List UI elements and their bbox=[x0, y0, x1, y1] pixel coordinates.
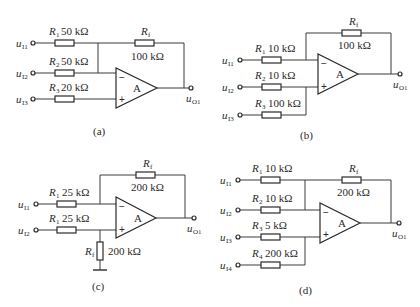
ground-resistor-label: R bbox=[84, 245, 92, 257]
resistor-label-sub: 1 bbox=[56, 31, 60, 39]
resistor-value: 50 kΩ bbox=[61, 25, 88, 37]
feedback-label-sub: f bbox=[356, 168, 359, 176]
feedback-label: R bbox=[140, 25, 148, 37]
feedback-label: R bbox=[348, 15, 356, 27]
resistor-r2 bbox=[261, 207, 280, 213]
input-row-1: u I1 R 1 10 kΩ bbox=[220, 162, 305, 188]
input-terminal bbox=[31, 41, 35, 45]
resistor-label: R bbox=[254, 97, 262, 109]
resistor-label: R bbox=[254, 42, 262, 54]
resistor-r4 bbox=[261, 262, 280, 268]
resistor-label-sub: 3 bbox=[56, 87, 60, 95]
resistor-r3 bbox=[262, 112, 281, 118]
feedback-value: 100 kΩ bbox=[338, 39, 371, 51]
panel-caption: (c) bbox=[92, 280, 105, 293]
feedback-value: 200 kΩ bbox=[337, 186, 370, 198]
resistor-value: 10 kΩ bbox=[265, 162, 292, 174]
resistor-value: 10 kΩ bbox=[265, 192, 292, 204]
resistor-value: 25 kΩ bbox=[62, 212, 89, 224]
panel-caption: (d) bbox=[299, 284, 312, 297]
resistor-r1 bbox=[55, 40, 74, 46]
resistor-r1 bbox=[261, 177, 280, 183]
feedback-value: 200 kΩ bbox=[131, 181, 164, 193]
input-label-sub: I3 bbox=[22, 99, 28, 107]
resistor-value: 10 kΩ bbox=[268, 42, 295, 54]
noninverting-input-sign: + bbox=[321, 81, 327, 92]
feedback-resistor bbox=[342, 30, 361, 36]
resistor-label-sub: 1 bbox=[56, 218, 60, 226]
input-row-2: u I2 R 1 25 kΩ bbox=[18, 212, 116, 238]
resistor-label: R bbox=[254, 69, 262, 81]
resistor-label-sub: 3 bbox=[262, 103, 266, 111]
input-terminal bbox=[236, 263, 240, 267]
output-terminal bbox=[189, 86, 193, 90]
resistor-r3 bbox=[55, 96, 74, 102]
output-terminal bbox=[397, 221, 401, 225]
resistor-r2 bbox=[55, 70, 74, 76]
input-terminal bbox=[236, 235, 240, 239]
noninverting-input-sign: + bbox=[119, 224, 125, 235]
circuit-panel-c: u I1 R 1 25 kΩ u I2 R 1 25 kΩ R bbox=[18, 157, 202, 293]
resistor-label: R bbox=[251, 192, 259, 204]
input-terminal bbox=[238, 58, 242, 62]
feedback-label-sub: f bbox=[356, 21, 359, 29]
input-terminal bbox=[34, 202, 38, 206]
input-row-3: u I3 R 3 20 kΩ bbox=[16, 81, 116, 107]
ground-resistor bbox=[97, 242, 103, 260]
noninverting-input-sign: + bbox=[323, 229, 329, 240]
resistor-value: 5 kΩ bbox=[265, 219, 287, 231]
input-row-1: u I1 R 1 25 kΩ bbox=[18, 186, 116, 212]
resistor-label-sub: 1 bbox=[56, 192, 60, 200]
input-terminal bbox=[238, 113, 242, 117]
feedback-label-sub: f bbox=[148, 31, 151, 39]
output-label-sub: O1 bbox=[193, 228, 202, 236]
input-terminal bbox=[34, 228, 38, 232]
resistor-label-sub: 2 bbox=[262, 75, 266, 83]
resistor-label-sub: 3 bbox=[259, 225, 263, 233]
feedback-label: R bbox=[348, 162, 356, 174]
input-terminal bbox=[31, 71, 35, 75]
input-label-sub: I2 bbox=[24, 230, 30, 238]
feedback-resistor bbox=[136, 172, 155, 178]
op-amp-label: A bbox=[338, 217, 346, 229]
feedback-label: R bbox=[142, 157, 150, 169]
resistor-value: 10 kΩ bbox=[268, 69, 295, 81]
input-terminal bbox=[236, 178, 240, 182]
resistor-value: 100 kΩ bbox=[268, 97, 301, 109]
panel-caption: (a) bbox=[93, 125, 106, 138]
output-label-sub: O1 bbox=[399, 84, 408, 92]
resistor-label: R bbox=[48, 55, 56, 67]
input-label-sub: I2 bbox=[228, 87, 234, 95]
input-row-2: u I2 R 2 10 kΩ bbox=[222, 69, 318, 95]
input-label-sub: I3 bbox=[226, 237, 232, 245]
input-label-sub: I1 bbox=[228, 60, 234, 68]
input-label-sub: I1 bbox=[226, 180, 232, 188]
output-label-sub: O1 bbox=[192, 98, 201, 106]
inverting-input-sign: − bbox=[119, 72, 125, 83]
input-label-sub: I2 bbox=[226, 210, 232, 218]
input-row-4: u I4 R 4 200 kΩ bbox=[220, 247, 305, 273]
circuit-panel-a: u I1 R 1 50 kΩ u I2 R 2 50 kΩ u I3 bbox=[16, 25, 201, 138]
output-terminal bbox=[192, 216, 196, 220]
noninverting-input-sign: + bbox=[119, 94, 125, 105]
inverting-input-sign: − bbox=[323, 207, 329, 218]
resistor-label: R bbox=[48, 212, 56, 224]
input-label-sub: I2 bbox=[22, 73, 28, 81]
feedback-label-sub: f bbox=[150, 163, 153, 171]
resistor-label: R bbox=[251, 219, 259, 231]
op-amp-label: A bbox=[134, 212, 142, 224]
ground-resistor-value: 200 kΩ bbox=[108, 245, 141, 257]
input-row-2: u I2 R 2 50 kΩ bbox=[16, 55, 116, 81]
resistor-label: R bbox=[48, 25, 56, 37]
output-terminal bbox=[398, 72, 402, 76]
input-label-sub: I1 bbox=[22, 43, 28, 51]
output-label-sub: O1 bbox=[398, 233, 407, 241]
input-label-sub: I3 bbox=[228, 115, 234, 123]
input-terminal bbox=[236, 208, 240, 212]
resistor-r3 bbox=[261, 234, 280, 240]
resistor-label-sub: 4 bbox=[259, 253, 263, 261]
resistor-label-sub: 1 bbox=[262, 48, 266, 56]
feedback-resistor bbox=[342, 177, 361, 183]
resistor-value: 200 kΩ bbox=[265, 247, 298, 259]
input-terminal bbox=[238, 85, 242, 89]
